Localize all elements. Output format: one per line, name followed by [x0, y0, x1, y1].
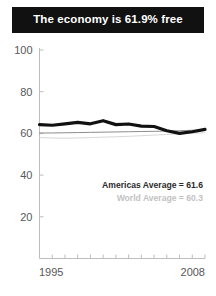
chart-area: 20406080100 1995 2008 Americas Average =…	[0, 36, 216, 296]
y-axis-tick-label: 40	[20, 169, 32, 181]
y-axis-tick-label: 20	[20, 211, 32, 223]
chart-title-bar: The economy is 61.9% free	[12, 7, 204, 33]
legend-americas-average: Americas Average = 61.6	[102, 180, 203, 190]
y-axis-tick-label: 60	[20, 127, 32, 139]
x-axis-start-label: 1995	[39, 266, 63, 278]
y-axis-tick-labels: 20406080100	[14, 44, 32, 223]
economic-freedom-line-chart: 20406080100 1995 2008 Americas Average =…	[0, 36, 216, 296]
page-title: The economy is 61.9% free	[33, 14, 183, 26]
y-axis-tick-label: 100	[14, 44, 32, 56]
x-axis-end-label: 2008	[181, 266, 205, 278]
x-axis-ticks	[40, 255, 206, 259]
chart-page: The economy is 61.9% free 20406080100 19…	[0, 0, 216, 296]
legend-world-average: World Average = 60.3	[117, 193, 204, 203]
y-axis-tick-label: 80	[20, 86, 32, 98]
